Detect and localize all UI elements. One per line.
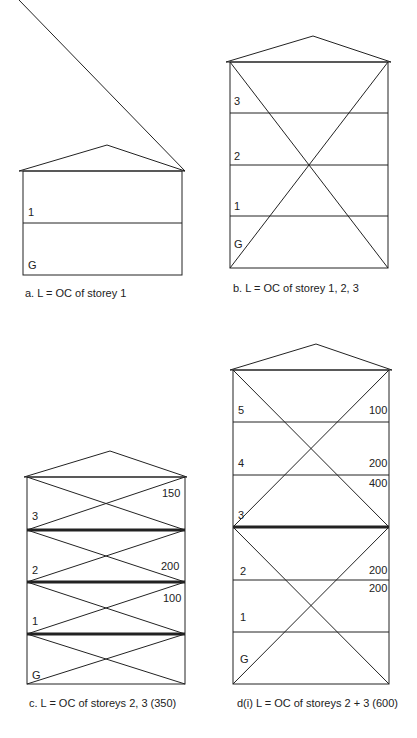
caption-d: d(i) L = OC of storeys 2 + 3 (600) bbox=[237, 697, 398, 709]
storey-label: 2 bbox=[240, 565, 246, 577]
building-c: 3 2 1 G 150 200 100 c. L = OC of storeys… bbox=[24, 451, 187, 709]
building-a: 1 G a. L = OC of storey 1 bbox=[19, 0, 185, 299]
storey-label: G bbox=[28, 259, 37, 271]
storey-label: 3 bbox=[238, 509, 244, 521]
storey-label: 3 bbox=[234, 95, 240, 107]
roof-a bbox=[19, 145, 185, 171]
storey-label: G bbox=[32, 669, 41, 681]
building-b: 3 2 1 G b. L = OC of storey 1, 2, 3 bbox=[226, 36, 391, 294]
storey-label: 3 bbox=[32, 510, 38, 522]
diagram-canvas: 1 G a. L = OC of storey 1 3 2 1 G b. L =… bbox=[0, 0, 417, 738]
storey-label: 1 bbox=[28, 206, 34, 218]
load-label: 150 bbox=[162, 487, 180, 499]
storey-label: 1 bbox=[240, 611, 246, 623]
load-label: 200 bbox=[369, 564, 387, 576]
roof-b bbox=[226, 36, 391, 62]
storey-label: 2 bbox=[32, 564, 38, 576]
caption-c: c. L = OC of storeys 2, 3 (350) bbox=[29, 697, 176, 709]
roof-c bbox=[24, 451, 187, 477]
load-label: 100 bbox=[369, 404, 387, 416]
load-label: 200 bbox=[161, 560, 179, 572]
storey-label: 1 bbox=[32, 615, 38, 627]
storey-label: 4 bbox=[238, 457, 244, 469]
caption-a: a. L = OC of storey 1 bbox=[25, 287, 126, 299]
storey-label: 5 bbox=[238, 404, 244, 416]
load-label: 200 bbox=[369, 457, 387, 469]
storey-label: 2 bbox=[234, 150, 240, 162]
load-label: 100 bbox=[163, 592, 181, 604]
storey-label: G bbox=[234, 238, 243, 250]
building-d: 5 4 3 2 1 G 100 200 400 200 200 d(i) L =… bbox=[230, 344, 398, 709]
load-label: 200 bbox=[369, 582, 387, 594]
caption-b: b. L = OC of storey 1, 2, 3 bbox=[233, 282, 359, 294]
storey-label: 1 bbox=[234, 200, 240, 212]
load-label: 400 bbox=[369, 477, 387, 489]
roof-d bbox=[230, 344, 392, 370]
storey-label: G bbox=[240, 653, 249, 665]
